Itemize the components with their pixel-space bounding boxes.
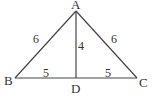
length-label-dc: 5 — [105, 66, 111, 80]
length-label-bd: 5 — [43, 66, 49, 80]
triangle-diagram: A B C D 6 6 4 5 5 — [0, 0, 158, 96]
length-label-ad: 4 — [78, 39, 84, 53]
length-label-ab: 6 — [33, 32, 39, 46]
length-label-ac: 6 — [111, 32, 117, 46]
vertex-label-a: A — [71, 0, 81, 12]
vertex-label-c: C — [139, 75, 148, 90]
vertex-label-d: D — [71, 81, 80, 96]
vertex-label-b: B — [4, 73, 13, 88]
